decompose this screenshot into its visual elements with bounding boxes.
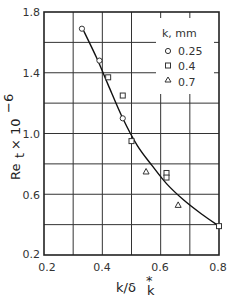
svg-text:k: k bbox=[147, 283, 155, 298]
triangle-data-point bbox=[143, 168, 149, 174]
y-tick-0-2: 0.2 bbox=[23, 248, 41, 261]
circle-data-point bbox=[79, 26, 84, 31]
x-tick-0-8: 0.8 bbox=[209, 261, 227, 274]
y-tick-0-6: 0.6 bbox=[23, 189, 41, 202]
svg-text:× 10: × 10 bbox=[8, 118, 23, 150]
y-tick-1-4: 1.4 bbox=[23, 67, 41, 80]
legend-label-1: 0.4 bbox=[178, 60, 196, 73]
square-data-point bbox=[120, 93, 125, 98]
square-data-point bbox=[106, 75, 111, 80]
legend-label-2: 0.7 bbox=[178, 76, 196, 89]
x-tick-0-6: 0.6 bbox=[151, 261, 169, 274]
y-tick-1-0: 1.0 bbox=[23, 128, 41, 141]
svg-text:k/δ: k/δ bbox=[116, 280, 136, 295]
circle-data-point bbox=[120, 116, 125, 121]
x-axis-label: k/δ * k bbox=[116, 273, 155, 298]
svg-text:t: t bbox=[12, 153, 27, 158]
legend-title: k, mm bbox=[162, 27, 197, 40]
triangle-data-point bbox=[175, 202, 181, 208]
legend-label-0: 0.25 bbox=[178, 45, 203, 58]
square-data-point bbox=[164, 175, 169, 180]
square-data-point bbox=[217, 224, 222, 229]
svg-text:−6: −6 bbox=[1, 94, 16, 113]
x-tick-0-2: 0.2 bbox=[38, 261, 56, 274]
square-marker-icon bbox=[166, 63, 171, 68]
x-tick-0-4: 0.4 bbox=[93, 261, 111, 274]
square-data-point bbox=[129, 139, 134, 144]
svg-text:Re: Re bbox=[8, 164, 23, 180]
y-tick-1-8: 1.8 bbox=[23, 6, 41, 19]
chart: 1.8 1.4 1.0 0.6 0.2 0.2 0.4 0.6 0.8 k/δ … bbox=[0, 0, 235, 298]
circle-data-point bbox=[97, 58, 102, 63]
circle-marker-icon bbox=[165, 48, 170, 53]
